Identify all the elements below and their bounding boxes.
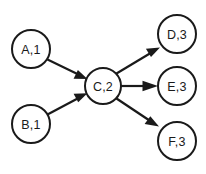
node-e[interactable]: E,3: [158, 67, 196, 105]
edge-c-to-d-line: [117, 53, 152, 74]
edge-b-to-c-line: [48, 98, 80, 115]
node-f[interactable]: F,3: [158, 122, 196, 160]
node-b[interactable]: B,1: [12, 105, 50, 143]
node-c-label: C,2: [93, 80, 113, 94]
node-f-label: F,3: [168, 135, 185, 149]
node-group: A,1 B,1 C,2 D,3 E,3 F,3: [12, 15, 196, 160]
edge-b-to-c-arrowhead: [74, 93, 88, 102]
edge-c-to-e-arrowhead: [143, 81, 159, 92]
edge-c-to-d[interactable]: [117, 48, 161, 74]
node-a-label: A,1: [21, 43, 40, 57]
edge-c-to-f[interactable]: [117, 99, 160, 127]
edge-c-to-f-line: [117, 99, 150, 121]
node-a[interactable]: A,1: [12, 30, 50, 68]
diagram-canvas: A,1 B,1 C,2 D,3 E,3 F,3: [0, 0, 206, 174]
edge-b-to-c[interactable]: [48, 93, 88, 114]
graph-svg: A,1 B,1 C,2 D,3 E,3 F,3: [0, 0, 206, 174]
edge-a-to-c-arrowhead: [74, 70, 88, 79]
node-b-label: B,1: [21, 118, 40, 132]
node-e-label: E,3: [167, 80, 186, 94]
node-c[interactable]: C,2: [85, 68, 121, 104]
node-d[interactable]: D,3: [158, 15, 196, 53]
node-d-label: D,3: [167, 28, 187, 42]
edge-a-to-c-line: [48, 60, 80, 76]
edge-c-to-e[interactable]: [121, 81, 158, 92]
edge-a-to-c[interactable]: [48, 60, 88, 79]
